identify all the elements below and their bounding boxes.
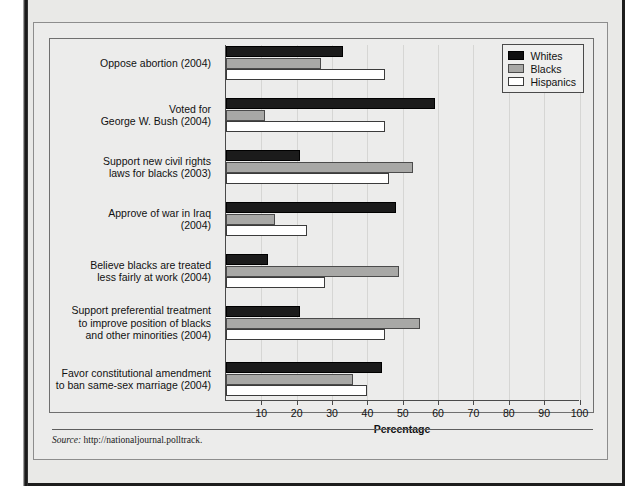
x-tick-label-90: 90	[538, 407, 550, 419]
legend-swatch-hispanics-icon	[508, 77, 524, 86]
bar-hispanics-5	[226, 277, 325, 288]
category-label-7: Favor constitutional amendmentto ban sam…	[0, 367, 211, 392]
category-label-line: (2004)	[0, 219, 211, 232]
bar-whites-7	[226, 362, 382, 373]
x-tick-20	[297, 400, 298, 405]
bar-group-6: Support preferential treatmentto improve…	[50, 306, 593, 340]
category-label-line: Support new civil rights	[0, 155, 211, 168]
source-keyword: Source:	[52, 435, 81, 445]
category-label-5: Believe blacks are treatedless fairly at…	[0, 259, 211, 284]
legend-label-hispanics: Hispanics	[530, 76, 576, 88]
legend-item-hispanics: Hispanics	[508, 75, 576, 88]
category-label-line: to improve position of blacks	[0, 317, 211, 330]
legend-item-blacks: Blacks	[508, 62, 576, 75]
legend-label-whites: Whites	[530, 50, 562, 62]
bar-hispanics-7	[226, 385, 367, 396]
legend-label-blacks: Blacks	[530, 63, 561, 75]
category-label-line: less fairly at work (2004)	[0, 271, 211, 284]
x-tick-70	[473, 400, 474, 405]
bar-hispanics-2	[226, 121, 385, 132]
chart-legend: Whites Blacks Hispanics	[502, 44, 584, 93]
x-tick-50	[403, 400, 404, 405]
bar-group-7: Favor constitutional amendmentto ban sam…	[50, 362, 593, 396]
x-tick-label-30: 30	[326, 407, 338, 419]
category-label-3: Support new civil rightslaws for blacks …	[0, 155, 211, 180]
bar-blacks-4	[226, 214, 275, 225]
category-label-line: Oppose abortion (2004)	[0, 57, 211, 70]
category-label-line: George W. Bush (2004)	[0, 115, 211, 128]
x-tick-label-70: 70	[468, 407, 480, 419]
bar-whites-1	[226, 46, 343, 57]
x-tick-90	[544, 400, 545, 405]
x-tick-label-20: 20	[291, 407, 303, 419]
figure-outer-box: 102030405060708090100 Percentage Oppose …	[33, 22, 608, 460]
category-label-line: Believe blacks are treated	[0, 259, 211, 272]
plot-area: 102030405060708090100 Percentage Oppose …	[50, 39, 593, 412]
category-label-2: Voted forGeorge W. Bush (2004)	[0, 103, 211, 128]
bar-blacks-1	[226, 58, 321, 69]
plot-frame: 102030405060708090100 Percentage Oppose …	[49, 38, 594, 413]
bar-group-5: Believe blacks are treatedless fairly at…	[50, 254, 593, 288]
legend-swatch-whites-icon	[508, 51, 524, 60]
bar-blacks-7	[226, 374, 353, 385]
category-label-line: Voted for	[0, 103, 211, 116]
bar-whites-5	[226, 254, 268, 265]
bar-blacks-6	[226, 318, 420, 329]
bar-hispanics-6	[226, 329, 385, 340]
source-divider	[52, 429, 593, 430]
bar-group-4: Approve of war in Iraq(2004)	[50, 202, 593, 236]
bar-blacks-2	[226, 110, 265, 121]
bar-hispanics-4	[226, 225, 307, 236]
legend-item-whites: Whites	[508, 49, 576, 62]
source-url: http://nationaljournal.polltrack.	[84, 435, 203, 445]
bar-blacks-3	[226, 162, 413, 173]
category-label-line: Favor constitutional amendment	[0, 367, 211, 380]
x-tick-40	[367, 400, 368, 405]
bar-hispanics-1	[226, 69, 385, 80]
bar-whites-4	[226, 202, 396, 213]
page-body: 102030405060708090100 Percentage Oppose …	[28, 0, 625, 486]
category-label-1: Oppose abortion (2004)	[0, 57, 211, 70]
x-tick-30	[332, 400, 333, 405]
category-label-6: Support preferential treatmentto improve…	[0, 304, 211, 342]
x-tick-80	[509, 400, 510, 405]
x-tick-60	[438, 400, 439, 405]
bar-hispanics-3	[226, 173, 389, 184]
x-tick-label-50: 50	[397, 407, 409, 419]
x-tick-100	[580, 400, 581, 405]
bar-group-2: Voted forGeorge W. Bush (2004)	[50, 98, 593, 132]
category-label-4: Approve of war in Iraq(2004)	[0, 207, 211, 232]
category-label-line: to ban same-sex marriage (2004)	[0, 379, 211, 392]
category-label-line: laws for blacks (2003)	[0, 167, 211, 180]
bar-whites-3	[226, 150, 300, 161]
bar-whites-2	[226, 98, 435, 109]
bar-blacks-5	[226, 266, 399, 277]
x-tick-label-60: 60	[432, 407, 444, 419]
x-tick-label-40: 40	[362, 407, 374, 419]
x-tick-10	[261, 400, 262, 405]
x-tick-label-100: 100	[571, 407, 589, 419]
x-tick-label-10: 10	[256, 407, 268, 419]
source-note: Source: http://nationaljournal.polltrack…	[52, 435, 202, 445]
category-label-line: and other minorities (2004)	[0, 329, 211, 342]
figure-page: 102030405060708090100 Percentage Oppose …	[0, 0, 625, 486]
legend-swatch-blacks-icon	[508, 64, 524, 73]
bar-whites-6	[226, 306, 300, 317]
bar-group-3: Support new civil rightslaws for blacks …	[50, 150, 593, 184]
category-label-line: Approve of war in Iraq	[0, 207, 211, 220]
x-tick-label-80: 80	[503, 407, 515, 419]
category-label-line: Support preferential treatment	[0, 304, 211, 317]
